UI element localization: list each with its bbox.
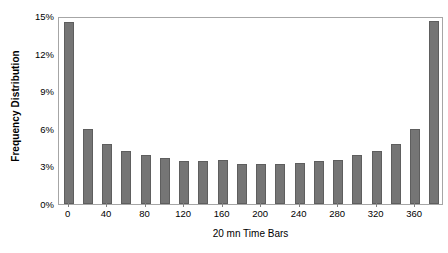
x-tick-label: 320 xyxy=(356,208,396,220)
plot-area xyxy=(58,17,443,205)
bar xyxy=(391,144,401,204)
y-tick-label: 6% xyxy=(22,125,54,135)
bar xyxy=(141,155,151,204)
x-tick-label: 160 xyxy=(202,208,242,220)
bar xyxy=(218,160,228,204)
bar xyxy=(275,164,285,204)
x-tick-mark xyxy=(376,203,377,207)
bar xyxy=(314,161,324,204)
bar xyxy=(179,161,189,204)
bars-layer xyxy=(59,18,442,204)
bar xyxy=(83,129,93,204)
x-tick-mark xyxy=(145,203,146,207)
x-axis-tick-labels: 04080120160200240280320360 xyxy=(58,208,443,222)
bar xyxy=(237,164,247,204)
bar xyxy=(410,129,420,204)
y-tick-label: 15% xyxy=(22,12,54,22)
bar xyxy=(160,158,170,204)
x-tick-label: 200 xyxy=(240,208,280,220)
y-tick-label: 3% xyxy=(22,162,54,172)
x-tick-mark xyxy=(260,203,261,207)
bar-chart: Frequency Distribution 0%3%6%9%12%15% 04… xyxy=(0,0,448,253)
x-tick-label: 280 xyxy=(317,208,357,220)
x-tick-mark xyxy=(299,203,300,207)
x-tick-label: 360 xyxy=(394,208,434,220)
x-tick-label: 80 xyxy=(125,208,165,220)
bar xyxy=(372,151,382,204)
x-tick-label: 240 xyxy=(279,208,319,220)
y-axis-tick-labels: 0%3%6%9%12%15% xyxy=(22,10,54,210)
bar xyxy=(121,151,131,204)
bar xyxy=(102,144,112,204)
bar xyxy=(64,22,74,204)
x-tick-mark xyxy=(183,203,184,207)
x-tick-mark xyxy=(337,203,338,207)
bar xyxy=(256,164,266,204)
x-tick-label: 40 xyxy=(86,208,126,220)
y-tick-label: 9% xyxy=(22,87,54,97)
x-tick-label: 0 xyxy=(48,208,88,220)
x-tick-mark xyxy=(106,203,107,207)
bar xyxy=(429,21,439,204)
x-tick-mark xyxy=(222,203,223,207)
x-tick-mark xyxy=(68,203,69,207)
bar xyxy=(295,163,305,204)
bar xyxy=(198,161,208,204)
y-tick-label: 12% xyxy=(22,50,54,60)
bar xyxy=(333,160,343,204)
x-tick-mark xyxy=(414,203,415,207)
bar xyxy=(352,155,362,204)
x-axis-title: 20 mn Time Bars xyxy=(58,228,443,239)
x-tick-label: 120 xyxy=(163,208,203,220)
